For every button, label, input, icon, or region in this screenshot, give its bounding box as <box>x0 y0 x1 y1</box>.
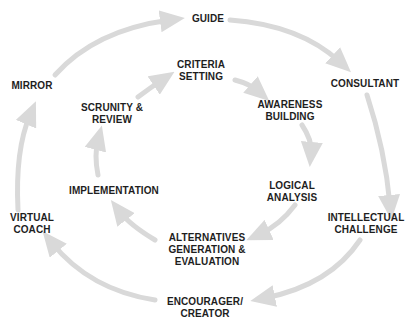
arrow-mirror-to-guide <box>55 20 170 75</box>
node-label: VIRTUAL <box>4 212 60 224</box>
node-label: ANALYSIS <box>260 192 324 204</box>
node-label: BUILDING <box>250 111 330 123</box>
node-label: EVALUATION <box>157 256 257 268</box>
arrow-consultant-to-intellectual <box>367 95 390 205</box>
cycle-arrows <box>0 0 414 328</box>
node-label: ALTERNATIVES <box>157 232 257 244</box>
node-label: CREATOR <box>150 308 260 320</box>
node-label: CHALLENGE <box>322 224 410 236</box>
node-label: SETTING <box>165 71 237 83</box>
node-scrunity-review: SCRUNITY & REVIEW <box>74 102 150 126</box>
node-implementation: IMPLEMENTATION <box>60 185 168 197</box>
node-label: LOGICAL <box>260 180 324 192</box>
arrow-logical-to-alternatives <box>260 205 295 234</box>
node-label: REVIEW <box>74 114 150 126</box>
node-label: INTELLECTUAL <box>322 212 410 224</box>
node-label: GENERATION & <box>157 244 257 256</box>
node-criteria-setting: CRITERIA SETTING <box>165 59 237 83</box>
node-label: SCRUNITY & <box>74 102 150 114</box>
arrow-intellectual-to-encourager <box>265 240 360 298</box>
arrow-implementation-to-scrunity <box>96 140 98 175</box>
node-mirror: MIRROR <box>6 80 58 92</box>
node-label: CONSULTANT <box>325 78 405 90</box>
arrow-awareness-to-logical <box>302 125 311 152</box>
node-intellectual-challenge: INTELLECTUAL CHALLENGE <box>322 212 410 236</box>
node-encourager-creator: ENCOURAGER/ CREATOR <box>150 296 260 320</box>
node-label: AWARENESS <box>250 99 330 111</box>
node-label: GUIDE <box>183 13 233 25</box>
node-awareness-building: AWARENESS BUILDING <box>250 99 330 123</box>
arrow-scrunity-to-criteria <box>138 80 162 97</box>
node-logical-analysis: LOGICAL ANALYSIS <box>260 180 324 204</box>
arrow-guide-to-consultant <box>230 20 340 62</box>
node-label: MIRROR <box>6 80 58 92</box>
node-label: IMPLEMENTATION <box>60 185 168 197</box>
node-consultant: CONSULTANT <box>325 78 405 90</box>
node-label: COACH <box>4 224 60 236</box>
arrow-criteria-to-awareness <box>235 80 258 91</box>
arrow-coach-to-mirror <box>18 115 31 210</box>
arrow-encourager-to-coach <box>52 243 155 300</box>
node-guide: GUIDE <box>183 13 233 25</box>
node-label: CRITERIA <box>165 59 237 71</box>
arrow-alternatives-to-implementation <box>120 212 155 240</box>
node-label: ENCOURAGER/ <box>150 296 260 308</box>
node-alternatives: ALTERNATIVES GENERATION & EVALUATION <box>157 232 257 268</box>
node-virtual-coach: VIRTUAL COACH <box>4 212 60 236</box>
